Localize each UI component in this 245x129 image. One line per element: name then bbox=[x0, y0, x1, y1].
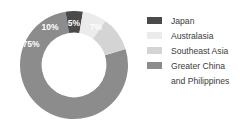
legend-swatch-icon-japan bbox=[147, 17, 162, 24]
legend-swatch-icon-greater-china bbox=[147, 62, 162, 69]
legend-label-greater-china-line2: and Philippines bbox=[171, 74, 243, 89]
legend-label-southeast-asia: Southeast Asia bbox=[171, 44, 228, 59]
legend-item-japan[interactable]: Japan bbox=[147, 14, 243, 29]
legend-label-greater-china: Greater China bbox=[171, 59, 225, 74]
slice-label-greater-china: 75% bbox=[22, 39, 39, 49]
legend-label-australasia: Australasia bbox=[171, 29, 214, 44]
donut-chart-svg: 5% 7% 10% 75% bbox=[8, 6, 140, 124]
legend-label-japan: Japan bbox=[171, 14, 194, 29]
chart-legend: Japan Australasia Southeast Asia Greater… bbox=[147, 14, 243, 89]
donut-chart: 5% 7% 10% 75% bbox=[8, 6, 140, 124]
slice-label-southeast-asia: 10% bbox=[41, 22, 58, 32]
legend-item-australasia[interactable]: Australasia bbox=[147, 29, 243, 44]
chart-page: 5% 7% 10% 75% Japan Australasia Southeas… bbox=[0, 0, 245, 129]
legend-item-greater-china[interactable]: Greater China bbox=[147, 59, 243, 74]
slice-label-australasia: 7% bbox=[90, 22, 103, 32]
slice-label-japan: 5% bbox=[68, 18, 81, 28]
legend-item-southeast-asia[interactable]: Southeast Asia bbox=[147, 44, 243, 59]
legend-swatch-icon-australasia bbox=[147, 32, 162, 39]
legend-swatch-icon-southeast-asia bbox=[147, 47, 162, 54]
